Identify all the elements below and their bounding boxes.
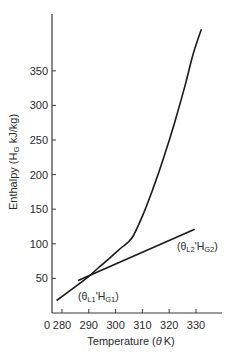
y-tick-label: 350: [30, 65, 48, 77]
series-group: [57, 29, 202, 300]
x-tick-label: 310: [133, 319, 151, 331]
x-tick-label: 330: [187, 319, 205, 331]
y-tick-label: 150: [30, 203, 48, 215]
y-tick-label: 300: [30, 99, 48, 111]
x-origin-label: 0: [44, 319, 50, 331]
y-tick-label: 250: [30, 134, 48, 146]
y-tick-label: 100: [30, 238, 48, 250]
x-tick-label: 320: [160, 319, 178, 331]
operating-line: [78, 229, 195, 280]
y-tick-label: 200: [30, 169, 48, 181]
x-axis-ticks: 280290300310320330: [53, 309, 205, 331]
x-tick-label: 300: [106, 319, 124, 331]
annotation-point-1: (θL1'HG1): [78, 290, 119, 304]
x-axis-title: Temperature (θK): [87, 335, 174, 347]
saturation-curve: [57, 29, 202, 300]
annotation-point-2: (θL2'HG2): [177, 240, 218, 254]
y-axis-title: Enthalpy (HG kJ/kg): [7, 114, 21, 210]
x-tick-label: 280: [53, 319, 71, 331]
enthalpy-temperature-chart: 50100150200250300350 280290300310320330 …: [0, 0, 233, 360]
x-tick-label: 290: [80, 319, 98, 331]
y-tick-label: 50: [36, 272, 48, 284]
